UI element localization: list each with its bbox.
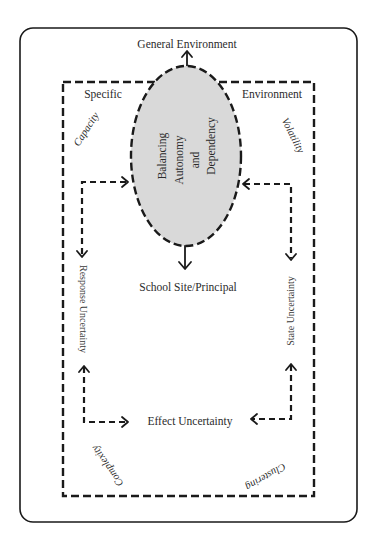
volatility-label: Volatility	[280, 116, 307, 155]
center-line-1: Balancing	[156, 132, 169, 179]
complexity-label: Complexity	[89, 443, 126, 489]
arrow-up-to-general-environment	[182, 51, 192, 66]
response-uncertainty-label: Response Uncertainty	[78, 265, 89, 353]
state-uncertainty-label: State Uncertainty	[285, 276, 296, 346]
connector-state-to-ellipse	[243, 179, 296, 260]
center-line-3: and	[189, 151, 201, 168]
general-environment-label: General Environment	[137, 38, 237, 50]
specific-label: Specific	[84, 88, 122, 101]
connector-state-to-effect-uncertainty	[251, 364, 296, 424]
clustering-label: Clustering	[244, 461, 288, 493]
center-line-2: Autonomy	[173, 135, 186, 184]
capacity-label: Capacity	[71, 110, 101, 148]
connector-effect-to-response-uncertainty	[79, 366, 128, 427]
school-site-principal-label: School Site/Principal	[139, 281, 236, 294]
diagram-canvas: General Environment Specific Environment…	[0, 0, 376, 544]
arrow-down-to-school-site	[179, 246, 191, 269]
effect-uncertainty-label: Effect Uncertainty	[147, 415, 232, 428]
connector-ellipse-to-response-uncertainty	[77, 177, 128, 257]
environment-label: Environment	[242, 88, 303, 100]
center-line-4: Dependency	[205, 117, 218, 175]
balancing-autonomy-dependency-node	[131, 66, 241, 246]
